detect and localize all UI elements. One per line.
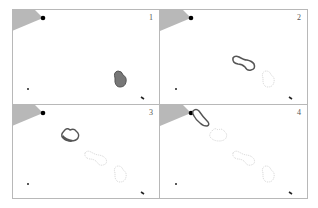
marker-left — [175, 88, 177, 90]
marker-right — [141, 192, 144, 194]
sensor-sector — [160, 9, 191, 31]
sensor-source — [189, 16, 194, 21]
panel-label: 1 — [149, 13, 153, 22]
panel-2: 2 — [160, 9, 307, 104]
target-blob — [233, 56, 255, 70]
marker-left — [27, 183, 29, 185]
sensor-sector — [160, 104, 191, 126]
panel-4: 4 — [160, 104, 307, 199]
marker-left — [27, 88, 29, 90]
past-blob — [114, 166, 126, 182]
sensor-sector — [12, 9, 43, 31]
past-blob — [262, 71, 274, 87]
panel-label: 2 — [297, 13, 301, 22]
past-blob — [210, 129, 227, 141]
panel-1: 1 — [12, 9, 159, 104]
panel-label: 4 — [297, 108, 301, 117]
marker-right — [141, 97, 144, 99]
past-blob — [85, 151, 107, 165]
panel-label: 3 — [149, 108, 153, 117]
panel-3-scene — [12, 104, 159, 199]
target-blob — [193, 110, 209, 127]
sensor-source — [41, 16, 46, 21]
marker-right — [289, 97, 292, 99]
panel-3: 3 — [12, 104, 159, 199]
sensor-sector — [12, 104, 43, 126]
past-blob — [233, 151, 255, 165]
panel-1-scene — [12, 9, 159, 104]
marker-left — [175, 183, 177, 185]
sensor-source — [41, 111, 46, 116]
marker-right — [289, 192, 292, 194]
panel-2-scene — [160, 9, 307, 104]
panel-4-scene — [160, 104, 307, 199]
target-blob — [114, 71, 126, 87]
past-blob — [262, 166, 274, 182]
